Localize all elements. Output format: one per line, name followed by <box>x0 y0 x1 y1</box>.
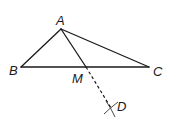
label-b: B <box>9 63 18 78</box>
segment-md-extension <box>86 67 111 108</box>
segment-ab <box>21 29 61 67</box>
label-d: D <box>117 99 126 114</box>
construction-arc-1 <box>104 102 118 114</box>
label-c: C <box>153 64 163 79</box>
label-m: M <box>72 71 83 86</box>
label-a: A <box>55 13 65 28</box>
triangle-median-diagram: A B M C D <box>0 0 182 132</box>
construction-arc-2 <box>106 101 115 117</box>
